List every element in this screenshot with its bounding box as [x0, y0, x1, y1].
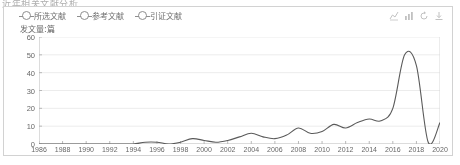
- chart-panel: 所选文献 参考文献 引证文献 发文量: [3, 6, 453, 156]
- chart-widget: 近年相关文献分析 所选文献 参考文献 引证文献: [0, 0, 460, 165]
- legend-item-citing[interactable]: 引证文献: [138, 10, 182, 21]
- x-tick-label: 1996: [149, 146, 165, 153]
- legend-item-reference[interactable]: 参考文献: [80, 10, 124, 21]
- x-tick-label: 1994: [126, 146, 142, 153]
- x-tick-label: 1998: [173, 146, 189, 153]
- y-axis-title: 发文量:篇: [20, 23, 55, 34]
- download-icon[interactable]: [434, 11, 444, 21]
- legend-item-label: 所选文献: [34, 10, 66, 21]
- circle-marker-icon: [80, 11, 89, 20]
- y-tick-label: 40: [27, 68, 35, 77]
- x-tick-label: 2004: [243, 146, 259, 153]
- x-tick-label: 2008: [291, 146, 307, 153]
- x-tick-label: 1988: [55, 146, 71, 153]
- legend-item-label: 参考文献: [92, 10, 124, 21]
- legend-item-selected[interactable]: 所选文献: [22, 10, 66, 21]
- x-tick-label: 1990: [78, 146, 94, 153]
- y-tick-label: 30: [27, 86, 35, 95]
- x-tick-label: 1992: [102, 146, 118, 153]
- x-tick-label: 2016: [385, 146, 401, 153]
- x-tick-label: 2014: [361, 146, 377, 153]
- chart-legend: 所选文献 参考文献 引证文献: [22, 10, 182, 21]
- x-tick-label: 2020: [432, 146, 448, 153]
- line-chart-icon[interactable]: [389, 11, 399, 21]
- y-tick-label: 50: [27, 50, 35, 59]
- chart-canvas: [39, 37, 440, 144]
- y-tick-label: 10: [27, 122, 35, 131]
- chart-toolbar: [389, 11, 444, 21]
- plot-area: 0102030405060 19861988199019921994199619…: [39, 37, 440, 144]
- y-tick-label: 20: [27, 104, 35, 113]
- circle-marker-icon: [22, 11, 31, 20]
- y-tick-label: 60: [27, 33, 35, 42]
- x-tick-label: 2018: [409, 146, 425, 153]
- x-tick-label: 2010: [314, 146, 330, 153]
- refresh-icon[interactable]: [419, 11, 429, 21]
- legend-item-label: 引证文献: [150, 10, 182, 21]
- x-tick-label: 2006: [267, 146, 283, 153]
- x-tick-label: 1986: [31, 146, 47, 153]
- x-tick-label: 2000: [196, 146, 212, 153]
- circle-marker-icon: [138, 11, 147, 20]
- x-tick-label: 2012: [338, 146, 354, 153]
- bar-chart-icon[interactable]: [404, 11, 414, 21]
- x-tick-label: 2002: [220, 146, 236, 153]
